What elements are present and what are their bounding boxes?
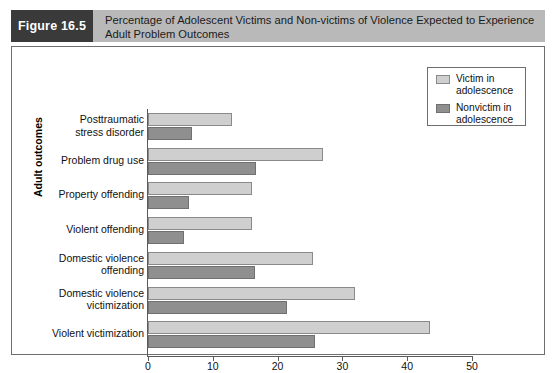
- legend-label-line: adolescence: [456, 114, 513, 126]
- plot-area: [148, 111, 472, 354]
- x-axis-tick-label: 10: [198, 360, 228, 372]
- legend-label-line: adolescence: [456, 85, 513, 97]
- bar-group: [148, 250, 472, 285]
- legend-item[interactable]: Victim inadolescence: [436, 73, 525, 97]
- x-axis-tick-label: 40: [392, 360, 422, 372]
- legend-item[interactable]: Nonvictim inadolescence: [436, 102, 525, 126]
- bar-group: [148, 180, 472, 215]
- x-axis-tick-label: 30: [327, 360, 357, 372]
- category-label-line: Property offending: [28, 188, 144, 201]
- y-axis-category-label: Violent offending: [28, 223, 144, 236]
- figure-container: Figure 16.5 Percentage of Adolescent Vic…: [0, 0, 559, 373]
- figure-header-band: Figure 16.5 Percentage of Adolescent Vic…: [11, 10, 545, 42]
- figure-number-label: Figure 16.5: [18, 19, 86, 33]
- bar-victim[interactable]: [148, 182, 252, 195]
- legend-swatch-nonvictim: [436, 104, 450, 113]
- bar-victim[interactable]: [148, 113, 232, 126]
- bar-victim[interactable]: [148, 252, 313, 265]
- bar-victim[interactable]: [148, 217, 252, 230]
- bar-group: [148, 146, 472, 181]
- bar-group: [148, 285, 472, 320]
- bar-nonvictim[interactable]: [148, 196, 189, 209]
- bar-victim[interactable]: [148, 148, 323, 161]
- y-axis-category-labels: Posttraumaticstress disorderProblem drug…: [26, 111, 144, 354]
- bar-victim[interactable]: [148, 321, 430, 334]
- legend-label-line: Victim in: [456, 73, 513, 85]
- category-label-line: victimization: [28, 299, 144, 312]
- bar-nonvictim[interactable]: [148, 301, 287, 314]
- figure-caption-line-2: Adult Problem Outcomes: [105, 27, 535, 41]
- figure-number-block: Figure 16.5: [11, 10, 93, 42]
- legend-item-label: Victim inadolescence: [456, 73, 513, 97]
- x-axis-tick-label: 20: [263, 360, 293, 372]
- chart-legend: Victim inadolescenceNonvictim inadolesce…: [427, 67, 526, 126]
- legend-item-label: Nonvictim inadolescence: [456, 102, 513, 126]
- bar-nonvictim[interactable]: [148, 127, 192, 140]
- x-axis-tick-label: 0: [133, 360, 163, 372]
- category-label-line: Domestic violence: [28, 287, 144, 300]
- category-label-line: Problem drug use: [28, 154, 144, 167]
- category-label-line: stress disorder: [28, 126, 144, 139]
- category-label-line: Posttraumatic: [28, 113, 144, 126]
- chart-frame: Adult outcomes Posttraumaticstress disor…: [11, 46, 545, 355]
- bar-nonvictim[interactable]: [148, 335, 315, 348]
- y-axis-category-label: Violent victimization: [28, 327, 144, 340]
- x-axis-line: [147, 356, 473, 357]
- figure-caption-line-1: Percentage of Adolescent Victims and Non…: [105, 13, 535, 27]
- bar-nonvictim[interactable]: [148, 231, 184, 244]
- legend-swatch-victim: [436, 75, 450, 84]
- bar-group: [148, 111, 472, 146]
- bar-nonvictim[interactable]: [148, 266, 255, 279]
- y-axis-category-label: Posttraumaticstress disorder: [28, 113, 144, 138]
- category-label-line: Violent victimization: [28, 327, 144, 340]
- bar-group: [148, 215, 472, 250]
- bar-nonvictim[interactable]: [148, 162, 256, 175]
- y-axis-category-label: Property offending: [28, 188, 144, 201]
- bar-victim[interactable]: [148, 287, 355, 300]
- y-axis-category-label: Domestic violencevictimization: [28, 287, 144, 312]
- category-label-line: Violent offending: [28, 223, 144, 236]
- y-axis-category-label: Domestic violenceoffending: [28, 252, 144, 277]
- x-axis-tick-label: 50: [457, 360, 487, 372]
- y-axis-category-label: Problem drug use: [28, 154, 144, 167]
- legend-label-line: Nonvictim in: [456, 102, 513, 114]
- category-label-line: Domestic violence: [28, 252, 144, 265]
- bar-group: [148, 319, 472, 354]
- figure-caption: Percentage of Adolescent Victims and Non…: [93, 10, 545, 42]
- category-label-line: offending: [28, 264, 144, 277]
